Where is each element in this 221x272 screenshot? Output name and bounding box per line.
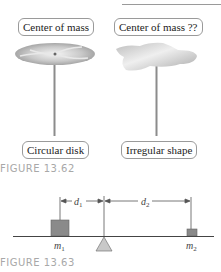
distance-d2-label: d2 bbox=[141, 196, 150, 209]
mass-m2-block bbox=[187, 229, 197, 236]
mass-m1-label: m1 bbox=[54, 240, 65, 253]
distance-d1-label: d1 bbox=[74, 196, 83, 209]
fulcrum-triangle bbox=[96, 237, 112, 251]
mass-m2-label: m2 bbox=[186, 240, 197, 253]
figure-caption-13-63: FIGURE 13.63 bbox=[0, 257, 75, 268]
mass-m1-block bbox=[51, 220, 69, 236]
figure-13-63-graphic: d1 d2 m1 m2 bbox=[0, 0, 221, 272]
